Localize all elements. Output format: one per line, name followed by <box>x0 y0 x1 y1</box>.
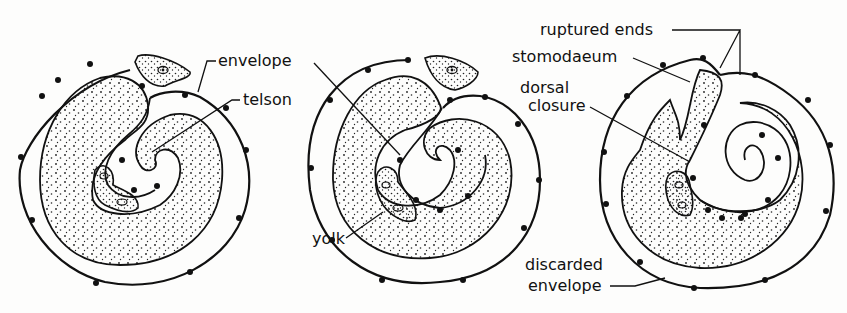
label-stomodaeum: stomodaeum <box>512 47 617 66</box>
label-discarded: discarded <box>525 255 603 274</box>
germ-band-spiral <box>700 122 790 212</box>
label-dorsal: dorsal <box>520 78 569 97</box>
label-closure: closure <box>528 96 586 115</box>
label-envelope: envelope <box>218 51 292 70</box>
label-telson: telson <box>243 90 292 109</box>
label-ruptured-ends: ruptured ends <box>540 20 653 39</box>
stage-2-embryo: yolk <box>308 56 542 283</box>
embryo-development-diagram: envelope telson <box>0 0 847 313</box>
stage-1-embryo: envelope telson <box>18 51 292 286</box>
label-discarded-envelope: envelope <box>528 276 602 295</box>
stage-3-embryo: ruptured ends stomodaeum dorsal closure … <box>512 20 834 295</box>
yolk-mass <box>622 70 803 268</box>
label-yolk: yolk <box>312 229 346 248</box>
yolk-mass <box>40 76 222 265</box>
